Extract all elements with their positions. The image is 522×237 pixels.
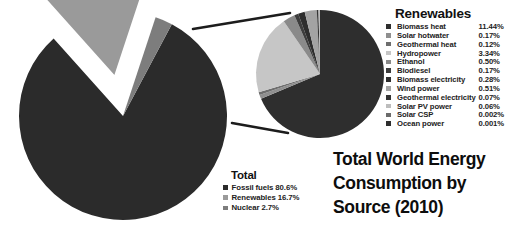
total-legend-row: Renewables 16.7% [222, 193, 337, 203]
legend-swatch-icon [386, 68, 391, 73]
legend-swatch-cell [385, 103, 397, 112]
chart-title-line-1: Total World Energy [333, 147, 522, 171]
legend-swatch-icon [386, 104, 391, 109]
legend-swatch-cell [385, 23, 397, 32]
figure-canvas: Renewables Biomass heat11.44%Solar hotwa… [0, 0, 522, 237]
legend-label: Renewables 16.7% [232, 193, 300, 202]
legend-swatch-icon [386, 113, 391, 118]
legend-swatch-icon [386, 42, 391, 47]
legend-value: 0.001% [479, 120, 504, 129]
legend-swatch-cell [385, 76, 397, 85]
legend-swatch-cell [385, 41, 397, 50]
chart-title: Total World Energy Consumption by Source… [333, 147, 522, 219]
legend-swatch-icon [386, 95, 391, 100]
legend-swatch-cell [385, 32, 397, 41]
legend-swatch-icon [386, 24, 391, 29]
chart-title-line-3: Source (2010) [333, 195, 522, 219]
leader-line-top [193, 13, 290, 29]
legend-swatch-cell [385, 111, 397, 120]
total-legend-title: Total [231, 169, 337, 181]
legend-swatch-cell [385, 94, 397, 103]
legend-swatch-cell [385, 120, 397, 129]
legend-swatch-cell [385, 85, 397, 94]
renewables-detail-pie [256, 10, 384, 138]
legend-swatch-cell [385, 67, 397, 76]
legend-swatch-icon [386, 33, 391, 38]
total-legend-row: Fossil fuels 80.6% [222, 183, 337, 193]
legend-swatch-icon [386, 77, 391, 82]
legend-swatch-icon [223, 185, 228, 190]
legend-swatch-icon [386, 60, 391, 65]
total-legend: Total Fossil fuels 80.6%Renewables 16.7%… [222, 169, 337, 214]
legend-label: Ocean power [397, 120, 479, 129]
legend-label: Nuclear 2.7% [232, 203, 279, 212]
renewables-legend-row: Ocean power0.001% [385, 120, 504, 129]
legend-swatch-cell [385, 50, 397, 59]
total-world-energy-pie [19, 0, 227, 220]
chart-title-line-2: Consumption by [333, 171, 522, 195]
renewables-legend-title: Renewables [395, 6, 522, 21]
legend-swatch-icon [386, 86, 391, 91]
legend-swatch-icon [386, 121, 391, 126]
legend-swatch-icon [386, 51, 391, 56]
legend-swatch-cell [385, 58, 397, 67]
renewables-legend-table: Biomass heat11.44%Solar hotwater0.17%Geo… [385, 23, 504, 129]
legend-swatch-icon [223, 206, 228, 211]
legend-label: Fossil fuels 80.6% [232, 183, 297, 192]
legend-swatch-icon [223, 195, 228, 200]
total-legend-row: Nuclear 2.7% [222, 203, 337, 213]
leader-line-bottom [232, 123, 288, 133]
renewables-legend: Renewables Biomass heat11.44%Solar hotwa… [385, 6, 522, 129]
